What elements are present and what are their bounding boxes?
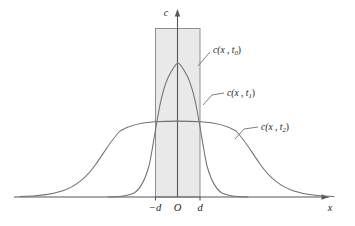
c-axis-arrowhead: [175, 9, 180, 17]
x-axis-arrowhead: [322, 194, 330, 199]
tick-label-minus-d: −d: [149, 202, 162, 213]
x-axis-label: x: [327, 202, 333, 213]
curve-label-t0-close: ): [238, 45, 241, 56]
diffusion-diagram: c x −d O d c(x , t0) c(x , t1) c(x , t2): [0, 0, 355, 226]
curve-label-t1-close: ): [252, 88, 255, 99]
curve-label-t2-text: c(x , t: [261, 122, 283, 133]
tick-label-d: d: [197, 202, 203, 213]
tick-label-origin: O: [174, 202, 182, 213]
curve-label-t1-text: c(x , t: [227, 88, 249, 99]
curve-label-t0: c(x , t0): [213, 45, 241, 56]
curve-label-t2: c(x , t2): [261, 122, 289, 133]
curve-label-t2-close: ): [286, 122, 289, 133]
leader-line-t1: [203, 93, 224, 105]
diagram-canvas: c x −d O d c(x , t0) c(x , t1) c(x , t2): [0, 0, 355, 226]
curve-label-t0-text: c(x , t: [213, 45, 235, 56]
c-axis-label: c: [164, 7, 169, 18]
curve-label-t1: c(x , t1): [227, 88, 255, 99]
